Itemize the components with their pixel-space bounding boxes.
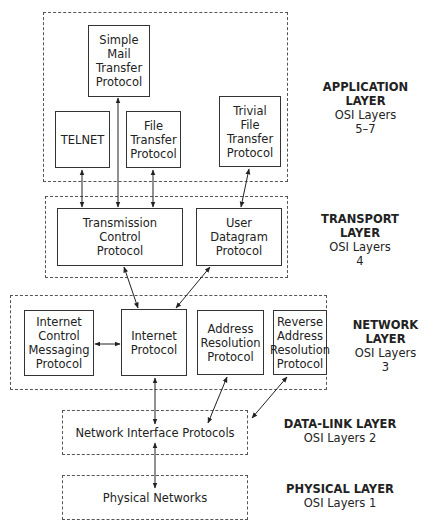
udp-ip-arrow (176, 267, 210, 308)
connector-arrows (0, 0, 431, 527)
arp-nip-arrow (208, 377, 227, 423)
tcp-ip-arrow (124, 267, 138, 308)
rarp-nip-arrow (252, 377, 287, 418)
tftp-udp-arrow (241, 169, 249, 207)
